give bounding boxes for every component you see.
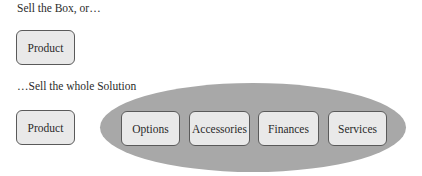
services-box-label: Services	[338, 123, 377, 135]
product-box-solution: Product	[16, 110, 75, 145]
accessories-box-label: Accessories	[192, 123, 247, 135]
product-box-standalone: Product	[16, 30, 75, 65]
product-box-label: Product	[28, 42, 64, 54]
options-box: Options	[121, 111, 180, 146]
options-box-label: Options	[132, 123, 168, 135]
finances-box: Finances	[258, 111, 319, 146]
accessories-box: Accessories	[189, 111, 250, 146]
caption-sell-the-solution: …Sell the whole Solution	[17, 79, 136, 93]
product-box-label: Product	[28, 122, 64, 134]
caption-sell-the-box: Sell the Box, or…	[17, 1, 101, 15]
finances-box-label: Finances	[268, 123, 309, 135]
services-box: Services	[328, 111, 387, 146]
